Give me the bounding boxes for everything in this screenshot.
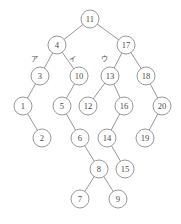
tree-edge	[131, 53, 141, 69]
tree-node[interactable]: 9	[109, 190, 127, 208]
node-label: 12	[84, 101, 93, 111]
tree-edge	[149, 114, 158, 130]
tree-edge	[27, 84, 35, 98]
node-label: 20	[158, 101, 167, 111]
tree-node[interactable]: 13	[101, 67, 119, 85]
node-label: 17	[122, 40, 131, 50]
tree-edge	[28, 114, 38, 131]
tree-edge	[85, 177, 94, 192]
tree-canvas: 1141731013181512162026141981579 アイウ	[0, 0, 181, 224]
tree-edge	[112, 146, 121, 161]
tree-edge	[44, 53, 52, 68]
tree-node[interactable]: 3	[31, 67, 49, 85]
tree-node[interactable]: 5	[53, 97, 71, 115]
tree-edge	[66, 114, 75, 130]
node-label: 19	[141, 133, 150, 143]
node-label: 15	[121, 164, 130, 174]
tree-edge	[97, 24, 118, 39]
tree-node[interactable]: 11	[81, 10, 99, 28]
tree-edge	[85, 146, 95, 162]
tree-node[interactable]: 18	[137, 67, 155, 85]
tree-edge	[104, 177, 113, 192]
edge-annotation-a3: ウ	[101, 54, 108, 63]
binary-tree-figure: 1141731013181512162026141981579 アイウ	[0, 0, 181, 224]
tree-edge	[114, 84, 120, 98]
node-label: 9	[116, 194, 120, 204]
tree-node[interactable]: 4	[48, 36, 66, 54]
tree-edge	[150, 84, 158, 98]
tree-edge	[111, 114, 120, 130]
tree-edge	[64, 25, 83, 40]
tree-node[interactable]: 14	[98, 129, 116, 147]
tree-node[interactable]: 16	[115, 97, 133, 115]
tree-node[interactable]: 8	[90, 160, 108, 178]
tree-edge	[114, 53, 122, 68]
node-label: 18	[142, 71, 151, 81]
node-label: 4	[55, 40, 60, 50]
node-label: 3	[38, 71, 42, 81]
tree-edge	[93, 83, 104, 98]
node-label: 13	[106, 71, 115, 81]
tree-node[interactable]: 6	[71, 129, 89, 147]
tree-annotations-group: アイウ	[31, 54, 108, 63]
tree-node[interactable]: 7	[71, 190, 89, 208]
node-label: 11	[86, 14, 94, 24]
tree-node[interactable]: 12	[79, 97, 97, 115]
node-label: 7	[78, 194, 83, 204]
tree-node[interactable]: 17	[117, 36, 135, 54]
tree-node[interactable]: 2	[33, 129, 51, 147]
tree-node[interactable]: 1	[14, 97, 32, 115]
edge-annotation-a2: イ	[69, 54, 76, 63]
node-label: 6	[78, 133, 83, 143]
tree-edge	[66, 84, 74, 98]
node-label: 8	[97, 164, 101, 174]
node-label: 5	[60, 101, 64, 111]
tree-nodes-group: 1141731013181512162026141981579	[14, 10, 171, 208]
node-label: 16	[120, 101, 129, 111]
edge-annotation-a1: ア	[31, 54, 38, 63]
tree-node[interactable]: 15	[116, 160, 134, 178]
tree-node[interactable]: 10	[70, 67, 88, 85]
node-label: 14	[103, 133, 112, 143]
node-label: 10	[75, 71, 84, 81]
tree-node[interactable]: 19	[136, 129, 154, 147]
node-label: 1	[21, 101, 25, 111]
node-label: 2	[40, 133, 44, 143]
tree-node[interactable]: 20	[153, 97, 171, 115]
